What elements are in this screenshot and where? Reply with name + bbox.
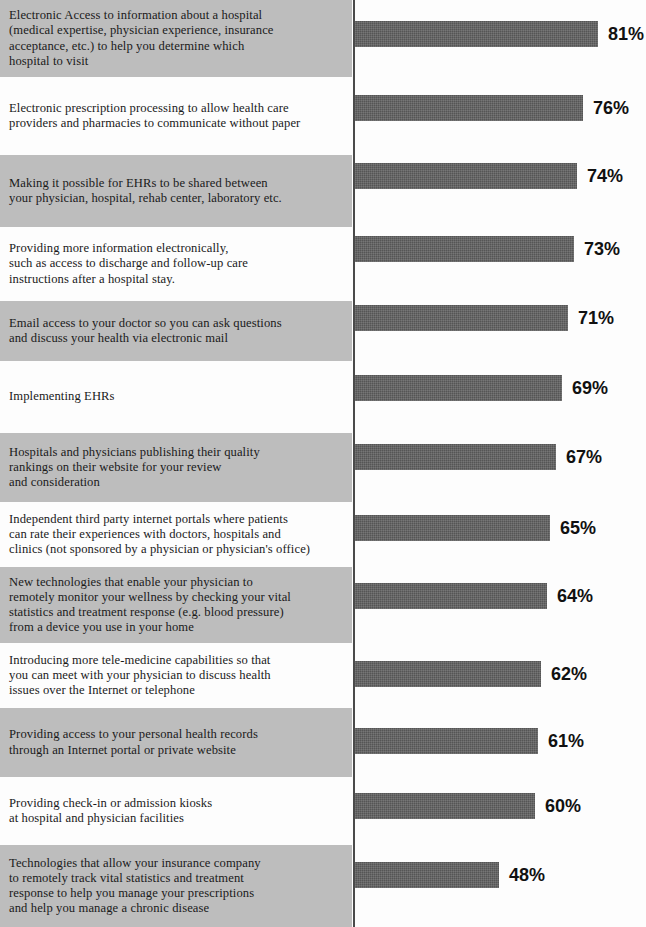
bar-row: 81% [352,21,646,47]
bar [355,21,598,47]
bar-row: 60% [352,793,646,819]
bar [355,862,499,888]
bar-value-label: 61% [548,732,584,750]
category-label-text: Independent third party internet portals… [9,512,342,558]
bar [355,583,547,609]
category-label-band: Email access to your doctor so you can a… [0,301,352,361]
bar-value-label: 48% [509,866,545,884]
category-label-text: Making it possible for EHRs to be shared… [9,176,342,206]
bar-row: 69% [352,375,646,401]
bar-value-label: 73% [584,240,620,258]
category-label-band: Making it possible for EHRs to be shared… [0,155,352,227]
category-label-text: Hospitals and physicians publishing thei… [9,445,342,491]
bar-value-label: 64% [557,587,593,605]
bar-row: 74% [352,163,646,189]
category-label-band: Electronic prescription processing to al… [0,77,352,155]
category-label-band: Providing access to your personal health… [0,708,352,777]
category-label-band: Independent third party internet portals… [0,502,352,567]
bar-value-label: 67% [566,448,602,466]
bar-row: 73% [352,236,646,262]
category-label-band: Electronic Access to information about a… [0,0,352,77]
bar-value-label: 65% [560,519,596,537]
category-label-text: Providing access to your personal health… [9,727,342,757]
bar [355,793,535,819]
bar-value-label: 76% [593,99,629,117]
category-label-text: New technologies that enable your physic… [9,575,342,636]
category-label-band: Providing more information electronicall… [0,227,352,301]
bar [355,236,574,262]
category-label-text: Providing check-in or admission kiosks a… [9,796,342,826]
category-label-text: Electronic Access to information about a… [9,8,342,69]
category-label-band: Providing check-in or admission kiosks a… [0,777,352,845]
bar-value-label: 71% [578,309,614,327]
bar-value-label: 69% [572,379,608,397]
category-label-column: Electronic Access to information about a… [0,0,352,927]
bar-row: 65% [352,515,646,541]
bar-row: 62% [352,661,646,687]
bar [355,375,562,401]
bar-value-label: 62% [551,665,587,683]
category-label-band: Introducing more tele-medicine capabilit… [0,643,352,708]
bar-value-label: 74% [587,167,623,185]
bar [355,515,550,541]
bar-row: 71% [352,305,646,331]
category-label-text: Implementing EHRs [9,389,342,404]
bar-row: 76% [352,95,646,121]
category-label-band: Implementing EHRs [0,361,352,433]
category-label-band: New technologies that enable your physic… [0,567,352,643]
bar-row: 64% [352,583,646,609]
category-label-text: Electronic prescription processing to al… [9,101,342,131]
bar-row: 67% [352,444,646,470]
bar [355,95,583,121]
category-label-band: Technologies that allow your insurance c… [0,845,352,927]
bar [355,444,556,470]
category-label-text: Providing more information electronicall… [9,241,342,287]
bar [355,163,577,189]
bar [355,661,541,687]
bar-row: 61% [352,728,646,754]
bar [355,728,538,754]
category-label-text: Email access to your doctor so you can a… [9,316,342,346]
bar-row: 48% [352,862,646,888]
category-label-band: Hospitals and physicians publishing thei… [0,433,352,502]
bar-value-label: 60% [545,797,581,815]
bar-value-label: 81% [608,25,644,43]
category-label-text: Introducing more tele-medicine capabilit… [9,653,342,699]
horizontal-bar-chart: Electronic Access to information about a… [0,0,646,927]
bar [355,305,568,331]
plot-area: 81%76%74%73%71%69%67%65%64%62%61%60%48% [352,0,646,927]
category-label-text: Technologies that allow your insurance c… [9,856,342,917]
